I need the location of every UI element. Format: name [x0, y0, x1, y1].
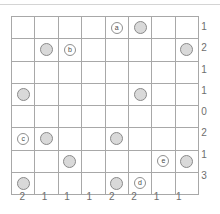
grid-cell-content: [129, 62, 151, 83]
grid-cell[interactable]: [58, 83, 81, 105]
grid-cell[interactable]: [82, 106, 105, 128]
row-clue-value: 1: [190, 59, 218, 80]
grid-cell[interactable]: [58, 106, 81, 128]
grid-row: b: [12, 39, 199, 61]
grid-row: [12, 61, 199, 83]
column-clue-value: 1: [56, 188, 78, 208]
grid-cell-content: [12, 84, 34, 105]
row-clue-column: 12110213: [190, 16, 218, 186]
grid-cell-content: [12, 62, 34, 83]
grid-cell[interactable]: [105, 128, 128, 150]
grid-cell-content: a: [106, 17, 128, 38]
grid-cell[interactable]: [105, 83, 128, 105]
grid-cell[interactable]: [128, 17, 151, 39]
grid-cell[interactable]: [12, 39, 35, 61]
grid-cell[interactable]: [58, 150, 81, 172]
grid-cell[interactable]: [82, 150, 105, 172]
grid-cell[interactable]: [58, 17, 81, 39]
grid-cell-content: [129, 39, 151, 60]
labeled-marker-icon[interactable]: b: [64, 44, 76, 56]
labeled-marker-icon[interactable]: c: [17, 133, 29, 145]
grid-cell[interactable]: [35, 128, 58, 150]
grid-cell[interactable]: [105, 106, 128, 128]
grid-cell-content: [82, 151, 104, 172]
grid-cell[interactable]: [35, 150, 58, 172]
grid-cell-content: [35, 17, 57, 38]
grid-cell[interactable]: [82, 17, 105, 39]
grid-cell[interactable]: [152, 106, 175, 128]
grid-cell-content: [106, 106, 128, 127]
stone-icon[interactable]: [63, 155, 76, 168]
grid-cell-content: [152, 39, 174, 60]
grid-cell[interactable]: e: [152, 150, 175, 172]
stone-icon[interactable]: [110, 132, 123, 145]
grid-cell[interactable]: [128, 128, 151, 150]
grid-cell-content: [35, 128, 57, 149]
grid-cell[interactable]: [152, 17, 175, 39]
grid-cell[interactable]: [35, 17, 58, 39]
grid-cell-content: [129, 128, 151, 149]
column-clue-value: 1: [78, 188, 100, 208]
grid-cell-content: e: [152, 151, 174, 172]
column-clue-value: 1: [145, 188, 167, 208]
grid-cell[interactable]: [82, 83, 105, 105]
grid-cell[interactable]: [35, 106, 58, 128]
puzzle-root: abced 12110213 21112211: [0, 0, 220, 214]
grid-cell-content: c: [12, 128, 34, 149]
stone-icon[interactable]: [134, 88, 147, 101]
grid-cell[interactable]: [152, 128, 175, 150]
grid-cell[interactable]: [152, 39, 175, 61]
column-clue-value: 2: [11, 188, 33, 208]
stone-icon[interactable]: [134, 21, 147, 34]
row-clue-value: 2: [190, 122, 218, 143]
grid-cell-content: [106, 128, 128, 149]
grid-cell[interactable]: [105, 61, 128, 83]
grid-row: [12, 106, 199, 128]
grid-cell[interactable]: [12, 83, 35, 105]
grid-cell[interactable]: [128, 61, 151, 83]
grid-cell[interactable]: [12, 150, 35, 172]
grid-cell[interactable]: [105, 39, 128, 61]
grid-cell-content: [152, 84, 174, 105]
grid-cell[interactable]: [128, 39, 151, 61]
stone-icon[interactable]: [40, 132, 53, 145]
column-clue-value: 2: [101, 188, 123, 208]
grid-cell-content: [106, 84, 128, 105]
grid-row: e: [12, 150, 199, 172]
grid-cell-content: [106, 62, 128, 83]
grid-cell[interactable]: [82, 61, 105, 83]
stone-icon[interactable]: [40, 43, 53, 56]
grid-cell[interactable]: [12, 106, 35, 128]
grid-cell[interactable]: c: [12, 128, 35, 150]
grid-cell[interactable]: [82, 39, 105, 61]
stone-icon[interactable]: [17, 88, 30, 101]
grid-cell-content: [12, 106, 34, 127]
grid-cell-content: [82, 84, 104, 105]
grid-cell-content: [82, 106, 104, 127]
labeled-marker-icon[interactable]: e: [157, 155, 169, 167]
grid-cell-content: [59, 106, 81, 127]
column-clue-value: 1: [168, 188, 190, 208]
grid-cell[interactable]: [12, 17, 35, 39]
grid-cell[interactable]: [105, 150, 128, 172]
grid-cell[interactable]: [12, 61, 35, 83]
top-divider-rule: [0, 4, 220, 5]
grid-cell[interactable]: [152, 83, 175, 105]
labeled-marker-icon[interactable]: a: [111, 22, 123, 34]
grid-cell-content: [82, 17, 104, 38]
grid-cell-content: [59, 62, 81, 83]
grid-cell[interactable]: [58, 61, 81, 83]
grid-cell[interactable]: [35, 61, 58, 83]
grid-row: c: [12, 128, 199, 150]
grid-cell[interactable]: [35, 39, 58, 61]
grid-cell[interactable]: [128, 150, 151, 172]
grid-cell[interactable]: [58, 128, 81, 150]
grid-cell[interactable]: [128, 83, 151, 105]
grid-cell[interactable]: b: [58, 39, 81, 61]
grid-cell[interactable]: [128, 106, 151, 128]
grid-cell[interactable]: a: [105, 17, 128, 39]
grid-cell[interactable]: [35, 83, 58, 105]
grid-cell-content: [106, 39, 128, 60]
grid-cell[interactable]: [152, 61, 175, 83]
grid-cell[interactable]: [82, 128, 105, 150]
